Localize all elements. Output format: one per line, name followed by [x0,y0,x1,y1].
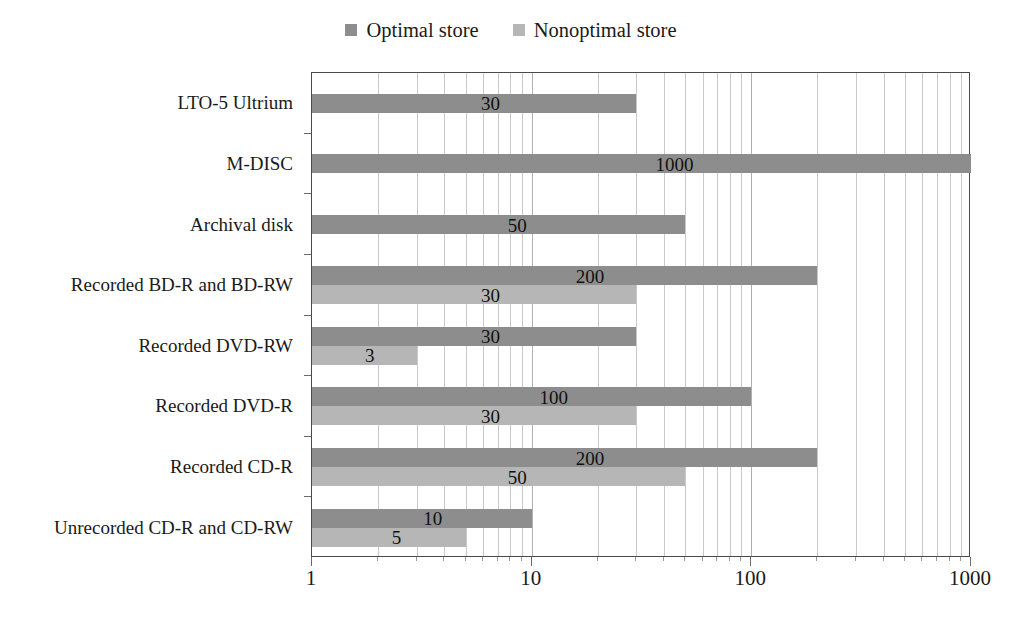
bar-chart: Optimal store Nonoptimal store LTO-5 Ult… [0,0,1022,630]
bar-row: 200 [312,266,971,285]
x-axis-tick [684,557,685,561]
bar-row: 3 [312,346,971,365]
x-axis-tick [936,557,937,561]
bar-optimal-store [312,154,971,173]
bar-row: 10 [312,509,971,528]
y-axis-tick [304,254,311,255]
x-axis-tick [416,557,417,561]
y-axis-tick [304,133,311,134]
bar-row: 30 [312,285,971,304]
x-axis-tick-label: 100 [735,568,767,589]
x-axis-tick [531,557,532,566]
x-axis-tick [883,557,884,561]
bar-row: 50 [312,467,971,486]
x-axis-tick [716,557,717,561]
x-axis-tick [663,557,664,561]
x-axis-tick [904,557,905,561]
bar-nonoptimal-store [312,467,685,486]
legend-swatch-optimal-store [345,24,357,36]
bar-row: 5 [312,528,971,547]
x-axis-tick [377,557,378,561]
x-axis-tick [482,557,483,561]
y-axis-label: M-DISC [226,153,293,172]
y-axis-label: Archival disk [190,214,293,233]
chart-legend: Optimal store Nonoptimal store [0,20,1022,41]
bar-row: 100 [312,387,971,406]
bar-nonoptimal-store [312,285,636,304]
y-axis-category-labels: LTO-5 UltriumM-DISCArchival diskRecorded… [0,72,303,557]
y-axis-label: Recorded CD-R [170,457,293,476]
x-axis-tick [949,557,950,561]
x-axis-tick [465,557,466,561]
x-axis-tick [750,557,751,566]
bar-row: 50 [312,215,971,234]
x-axis-tick [740,557,741,561]
y-axis-tick [304,375,311,376]
legend-item-nonoptimal-store: Nonoptimal store [513,20,677,41]
y-axis-label: Recorded BD-R and BD-RW [71,275,293,294]
legend-item-optimal-store: Optimal store [345,20,478,41]
bar-optimal-store [312,387,751,406]
x-axis-tick-labels: 1101001000 [0,568,1022,602]
x-axis-tick [921,557,922,561]
x-axis-tick [521,557,522,561]
plot-area: 30100050200303031003020050105 [311,72,970,557]
bar-nonoptimal-store [312,346,417,365]
y-axis-tick [304,436,311,437]
y-axis-label: Unrecorded CD-R and CD-RW [54,517,293,536]
bar-row: 1000 [312,154,971,173]
bar-row: 30 [312,94,971,113]
bar-optimal-store [312,266,817,285]
bar-optimal-store [312,94,636,113]
legend-swatch-nonoptimal-store [513,24,525,36]
bar-series-layer: 30100050200303031003020050105 [312,73,969,556]
x-axis-tick [855,557,856,561]
bar-optimal-store [312,327,636,346]
y-axis-tick [304,315,311,316]
x-axis-tick-label: 1 [306,568,317,589]
x-axis-tick [729,557,730,561]
bar-nonoptimal-store [312,406,636,425]
bar-nonoptimal-store [312,528,466,547]
x-axis-tick [635,557,636,561]
x-axis-tick [597,557,598,561]
x-axis-tick [311,557,312,566]
x-axis-tick [816,557,817,561]
x-axis-tick-label: 1000 [949,568,991,589]
y-axis-label: Recorded DVD-RW [138,335,293,354]
x-axis-tick [497,557,498,561]
x-axis-tick-label: 10 [520,568,541,589]
legend-label-optimal-store: Optimal store [366,20,478,41]
x-axis-ticks [311,557,970,567]
bar-optimal-store [312,509,532,528]
bar-optimal-store [312,448,817,467]
y-axis-label: Recorded DVD-R [155,396,293,415]
bar-row: 30 [312,406,971,425]
x-axis-tick [970,557,971,566]
bar-optimal-store [312,215,685,234]
x-axis-tick [702,557,703,561]
bar-row: 30 [312,327,971,346]
x-axis-tick [443,557,444,561]
y-axis-label: LTO-5 Ultrium [177,93,293,112]
legend-label-nonoptimal-store: Nonoptimal store [534,20,677,41]
bar-row: 200 [312,448,971,467]
y-axis-tick [304,193,311,194]
x-axis-tick [960,557,961,561]
y-axis-tick [304,496,311,497]
x-axis-tick [509,557,510,561]
